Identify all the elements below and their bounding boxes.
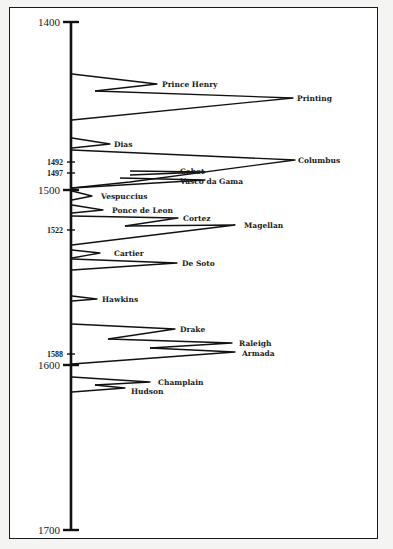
tick-label-1497: 1497 bbox=[47, 169, 63, 178]
tick-label-1588: 1588 bbox=[47, 350, 63, 359]
tick-label-1492: 1492 bbox=[47, 158, 63, 167]
curve-raleigh bbox=[108, 339, 232, 348]
label-vespuccius: Vespuccius bbox=[100, 192, 147, 201]
label-cartier: Cartier bbox=[114, 249, 145, 258]
label-champlain: Champlain bbox=[158, 378, 204, 387]
tick-label-1522: 1522 bbox=[47, 226, 63, 235]
tick-label-1400: 1400 bbox=[38, 16, 61, 28]
tick-label-1600: 1600 bbox=[38, 359, 61, 371]
curve-cortez bbox=[72, 216, 178, 226]
label-drake: Drake bbox=[180, 325, 206, 334]
curve-prince-henry bbox=[72, 74, 157, 91]
timeline-chart: 1400 1492 1497 1500 1522 1588 1600 1700 … bbox=[0, 0, 393, 549]
curve-ponce-de-leon bbox=[72, 205, 103, 213]
curve-vespuccius bbox=[72, 191, 92, 200]
label-cabot: Cabot bbox=[180, 167, 205, 176]
curve-armada bbox=[72, 348, 235, 364]
label-de-soto: De Soto bbox=[182, 259, 215, 268]
curve-hawkins bbox=[72, 296, 97, 301]
label-magellan: Magellan bbox=[244, 221, 284, 230]
label-hawkins: Hawkins bbox=[102, 295, 138, 304]
curve-magellan bbox=[72, 225, 235, 245]
tick-label-1700: 1700 bbox=[38, 524, 61, 536]
curve-champlain bbox=[72, 377, 150, 385]
label-cortez: Cortez bbox=[183, 214, 210, 223]
curve-dias bbox=[72, 138, 110, 148]
curve-cartier bbox=[72, 250, 100, 258]
curve-printing bbox=[72, 91, 293, 120]
curve-de-soto bbox=[72, 259, 177, 270]
label-printing: Printing bbox=[297, 94, 333, 103]
label-armada: Armada bbox=[241, 349, 275, 358]
curve-drake bbox=[72, 324, 175, 339]
tick-label-1500: 1500 bbox=[38, 184, 61, 196]
label-columbus: Columbus bbox=[298, 156, 340, 165]
curve-hudson bbox=[72, 385, 125, 392]
label-hudson: Hudson bbox=[131, 387, 164, 396]
label-ponce-de-leon: Ponce de Leon bbox=[112, 206, 174, 215]
label-dias: Dias bbox=[114, 140, 132, 149]
label-prince-henry: Prince Henry bbox=[162, 80, 218, 89]
label-vasco-da-gama: Vasco da Gama bbox=[179, 177, 243, 186]
label-raleigh: Raleigh bbox=[239, 339, 272, 348]
